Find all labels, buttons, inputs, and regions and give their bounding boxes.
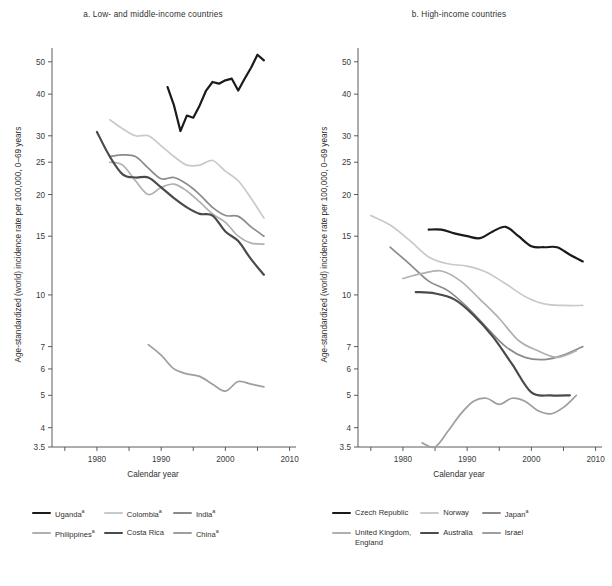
legend-swatch-line-icon <box>173 512 192 514</box>
legend-swatch-line-icon <box>482 532 501 534</box>
y-tick-label: 40 <box>36 90 46 99</box>
series-line-israel <box>422 395 576 447</box>
legend-item[interactable]: Chinaa <box>173 528 219 539</box>
legend-item-label: Ugandaa <box>55 508 85 519</box>
y-tick-label: 3.5 <box>340 443 352 452</box>
y-tick-label: 6 <box>40 365 45 374</box>
legend-footnote-marker: a <box>82 508 85 514</box>
legend-item-label: Israel <box>505 528 524 537</box>
y-tick-label: 20 <box>342 191 352 200</box>
x-tick-label: 1990 <box>152 455 171 464</box>
figure-root: a. Low- and middle-income countries Age-… <box>0 0 612 586</box>
series-line-philippines <box>110 162 264 244</box>
legend-item-label: Philippinesa <box>55 528 95 539</box>
y-tick-label: 10 <box>342 291 352 300</box>
y-tick-label: 30 <box>36 132 46 141</box>
x-tick-label: 2000 <box>522 455 541 464</box>
y-tick-label: 50 <box>36 58 46 67</box>
panel-high-income: b. High-income countries Age-standardize… <box>306 0 612 500</box>
legend-item[interactable]: Ugandaa <box>32 508 95 519</box>
legend-swatch-line-icon <box>332 512 351 514</box>
series-line-colombia <box>110 120 264 218</box>
legend-item[interactable]: Israel <box>482 528 529 537</box>
legend-footnote-marker: a <box>159 508 162 514</box>
legend-footnote-marker: a <box>216 528 219 534</box>
y-tick-label: 15 <box>36 232 46 241</box>
legend-item[interactable]: Norway <box>420 508 473 517</box>
legend-item-label: Costa Rica <box>127 528 164 537</box>
legend-footnote-marker: a <box>212 508 215 514</box>
series-line-india <box>110 155 264 236</box>
legend-item[interactable]: Philippinesa <box>32 528 95 539</box>
legend-item-label: Indiaa <box>196 508 215 519</box>
legend-swatch-line-icon <box>32 532 51 534</box>
y-tick-label: 5 <box>346 391 351 400</box>
panel-b-x-axis-label: Calendar year <box>306 470 612 479</box>
legend-item[interactable]: Colombiaa <box>104 508 164 519</box>
y-tick-label: 3.5 <box>34 443 46 452</box>
legend-item[interactable]: Czech Republic <box>332 508 411 517</box>
x-tick-label: 1980 <box>88 455 107 464</box>
series-line-japan <box>390 247 583 359</box>
y-tick-label: 40 <box>342 90 352 99</box>
panel-low-middle-income: a. Low- and middle-income countries Age-… <box>0 0 306 500</box>
y-tick-label: 4 <box>40 424 45 433</box>
series-line-norway <box>371 216 583 306</box>
legend-item-label: Japana <box>505 508 529 519</box>
series-line-united-kingdom-england <box>403 271 576 358</box>
footer-strip <box>0 578 612 586</box>
panel-b-plot: 3.54567101520253040501980199020002010 <box>306 0 612 500</box>
legend-swatch-line-icon <box>332 532 351 534</box>
legend-item-label: Czech Republic <box>355 508 408 517</box>
legend-item-label: Norway <box>443 508 469 517</box>
legend-swatch-line-icon <box>482 512 501 514</box>
panel-a-plot: 3.54567101520253040501980199020002010 <box>0 0 306 500</box>
legend-item-label: Australia <box>443 528 473 537</box>
y-tick-label: 15 <box>342 232 352 241</box>
y-tick-label: 25 <box>36 158 46 167</box>
legend-item[interactable]: United Kingdom, England <box>332 528 411 547</box>
panel-a-x-axis-label: Calendar year <box>0 470 306 479</box>
y-tick-label: 7 <box>346 343 351 352</box>
series-line-costa-rica <box>97 132 264 275</box>
y-tick-label: 20 <box>36 191 46 200</box>
legend-swatch-line-icon <box>104 512 123 514</box>
legend-item-label: United Kingdom, England <box>355 528 411 547</box>
series-line-uganda <box>168 55 264 131</box>
legend-footnote-marker: a <box>92 528 95 534</box>
y-tick-label: 50 <box>342 58 352 67</box>
y-tick-label: 6 <box>346 365 351 374</box>
panel-b-legend: Czech RepublicNorwayJapanaUnited Kingdom… <box>306 500 612 586</box>
legend-swatch-line-icon <box>104 532 123 534</box>
y-tick-label: 5 <box>40 391 45 400</box>
y-tick-label: 4 <box>346 424 351 433</box>
x-tick-label: 2010 <box>280 455 299 464</box>
legend-item[interactable]: Costa Rica <box>104 528 164 537</box>
x-tick-label: 2000 <box>216 455 235 464</box>
x-tick-label: 2010 <box>586 455 605 464</box>
legend-item[interactable]: Indiaa <box>173 508 219 519</box>
x-tick-label: 1980 <box>394 455 413 464</box>
y-tick-label: 7 <box>40 343 45 352</box>
y-tick-label: 30 <box>342 132 352 141</box>
legend-item-label: Chinaa <box>196 528 219 539</box>
legend-item-label: Colombiaa <box>127 508 162 519</box>
panel-a-legend: UgandaaColombiaaIndiaaPhilippinesaCosta … <box>0 500 306 586</box>
series-line-australia <box>416 292 570 396</box>
legend-item[interactable]: Japana <box>482 508 529 519</box>
legend-item[interactable]: Australia <box>420 528 473 537</box>
series-line-czech-republic <box>429 227 583 262</box>
legend-swatch-line-icon <box>420 512 439 514</box>
x-tick-label: 1990 <box>458 455 477 464</box>
legend-swatch-line-icon <box>420 532 439 534</box>
y-tick-label: 10 <box>36 291 46 300</box>
legend-swatch-line-icon <box>32 512 51 514</box>
y-tick-label: 25 <box>342 158 352 167</box>
legend-footnote-marker: a <box>525 508 528 514</box>
legend-swatch-line-icon <box>173 532 192 534</box>
series-line-china <box>148 345 264 392</box>
